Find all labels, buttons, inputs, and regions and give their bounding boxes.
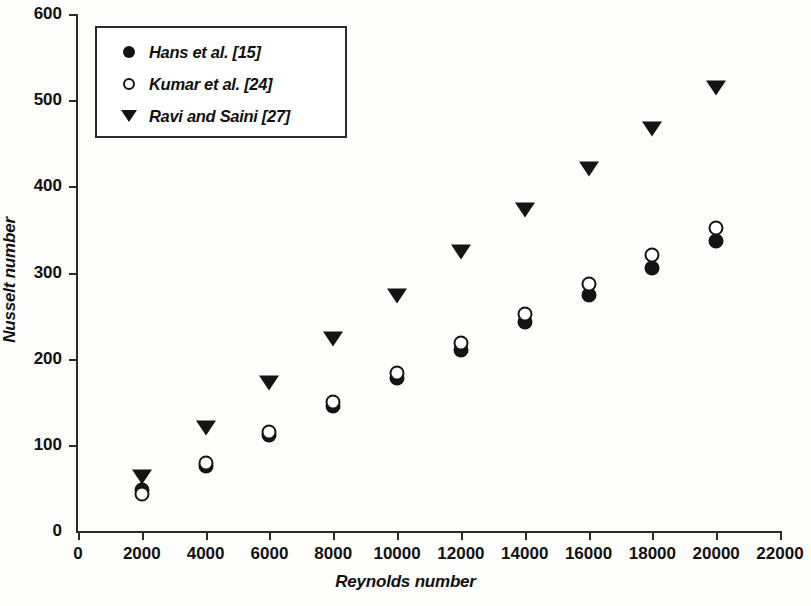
data-point-filled-triangle-down [132,469,152,484]
data-point-filled-triangle-down [323,331,343,346]
x-axis-tick [652,531,654,540]
x-axis-title: Reynolds number [0,572,811,592]
x-axis-tick-label: 16000 [565,544,612,564]
data-point-open-circle [262,424,277,439]
data-point-open-circle [645,248,660,263]
data-point-open-circle [198,455,213,470]
filled-circle-icon [109,46,149,58]
data-point-filled-triangle-down [579,162,599,177]
data-point-open-circle [517,306,532,321]
y-axis-tick [69,273,78,275]
x-axis-tick-label: 4000 [187,544,225,564]
data-point-filled-circle [645,261,660,276]
x-axis-tick [206,531,208,540]
legend-item: Kumar et al. [24] [109,68,335,100]
x-axis-tick-label: 10000 [373,544,420,564]
legend-item: Hans et al. [15] [109,36,335,68]
data-point-filled-triangle-down [642,122,662,137]
x-axis-tick-label: 14000 [501,544,548,564]
chart-figure: 0200040006000800010000120001400016000180… [0,0,811,606]
x-axis-tick-label: 2000 [123,544,161,564]
data-point-open-circle [134,486,149,501]
data-point-open-circle [326,394,341,409]
data-point-filled-circle [709,233,724,248]
data-point-open-circle [709,220,724,235]
data-point-filled-triangle-down [259,375,279,390]
x-axis-tick-label: 20000 [693,544,740,564]
x-axis-tick-label: 12000 [437,544,484,564]
data-point-open-circle [390,366,405,381]
y-axis-tick-label: 600 [34,4,62,24]
y-axis-tick-label: 200 [34,349,62,369]
x-axis-tick [78,531,80,540]
open-circle-icon [109,78,149,90]
x-axis-tick [525,531,527,540]
x-axis-tick [142,531,144,540]
x-axis-tick [397,531,399,540]
data-point-filled-triangle-down [706,81,726,96]
y-axis-tick [69,14,78,16]
y-axis-tick-label: 400 [34,176,62,196]
data-point-filled-triangle-down [451,244,471,259]
x-axis-tick [780,531,782,540]
legend-item: Ravi and Saini [27] [109,100,335,132]
y-axis-tick [69,359,78,361]
data-point-filled-triangle-down [387,288,407,303]
x-axis-tick-label: 18000 [629,544,676,564]
y-axis-tick-label: 300 [34,263,62,283]
chart-legend: Hans et al. [15] Kumar et al. [24] Ravi … [95,26,347,138]
y-axis-tick [69,445,78,447]
x-axis-tick [589,531,591,540]
y-axis-tick-label: 100 [34,435,62,455]
x-axis-tick-label: 22000 [756,544,803,564]
y-axis-tick-label: 0 [53,521,62,541]
x-axis-tick-label: 0 [73,544,82,564]
data-point-open-circle [581,276,596,291]
data-point-filled-triangle-down [515,203,535,218]
x-axis-tick [269,531,271,540]
x-axis-tick [461,531,463,540]
x-axis-tick [716,531,718,540]
data-point-filled-triangle-down [196,421,216,436]
y-axis-tick [69,100,78,102]
y-axis-tick [69,186,78,188]
x-axis-tick-label: 8000 [314,544,352,564]
legend-label: Hans et al. [15] [149,43,261,62]
y-axis-title: Nusselt number [0,210,20,350]
triangle-down-icon [109,110,149,122]
legend-label: Kumar et al. [24] [149,75,272,94]
x-axis-tick [333,531,335,540]
legend-label: Ravi and Saini [27] [149,107,290,126]
data-point-open-circle [453,336,468,351]
x-axis-tick-label: 6000 [251,544,289,564]
y-axis-tick-label: 500 [34,90,62,110]
